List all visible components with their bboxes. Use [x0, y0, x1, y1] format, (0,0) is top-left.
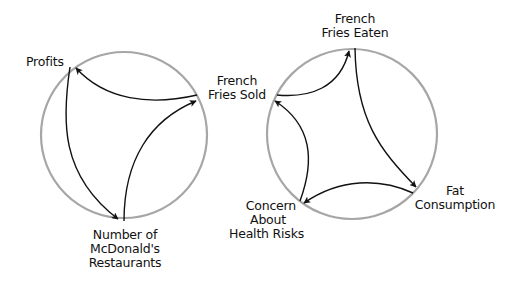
left-loop-circle [41, 52, 207, 218]
node-restaurants-line-2: McDonald's [84, 242, 166, 256]
arrow-fat-consumption-to-concern [304, 183, 413, 203]
node-restaurants-line-3: Restaurants [84, 256, 166, 270]
node-fries-eaten-line-1: French [312, 12, 398, 26]
node-fries-sold-line-2: Fries Sold [204, 88, 270, 102]
node-fries-sold-line-1: French [204, 74, 270, 88]
node-concern-line-1: Concern [218, 199, 304, 213]
node-profits-text: Profits [26, 54, 64, 69]
node-fat-consumption: Fat Consumption [410, 184, 500, 212]
node-fat-line-1: Fat [410, 184, 500, 198]
node-restaurants-line-1: Number of [84, 228, 166, 242]
node-fries-eaten-line-2: Fries Eaten [312, 26, 398, 40]
arrow-profits-to-restaurants [66, 67, 118, 219]
node-profits: Profits [26, 55, 64, 69]
node-concern-line-3: Health Risks [218, 227, 304, 241]
left-loop [41, 52, 207, 221]
causal-loop-diagram [0, 0, 523, 287]
node-fries-eaten: French Fries Eaten [312, 12, 398, 40]
node-health-concern: Concern About Health Risks [218, 199, 304, 241]
arrow-concern-to-fries-sold [275, 101, 308, 201]
node-concern-line-2: About [218, 213, 304, 227]
node-fries-sold: French Fries Sold [204, 74, 270, 102]
node-restaurants: Number of McDonald's Restaurants [84, 228, 166, 270]
node-fat-line-2: Consumption [410, 198, 500, 212]
arrow-restaurants-to-fries-sold [124, 101, 196, 221]
